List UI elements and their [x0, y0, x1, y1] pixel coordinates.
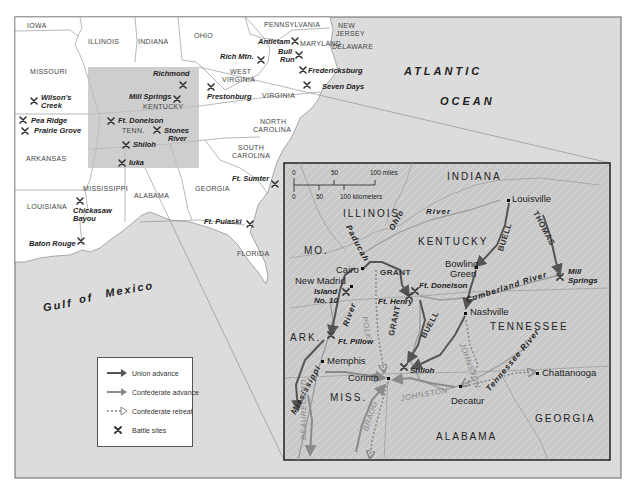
battle-label-prestonburg: Prestonburg: [207, 93, 252, 101]
scale-tick-km-50: 50: [316, 194, 323, 201]
state-label-ohio: OHIO: [194, 32, 213, 39]
commander-label-beauregard: BEAUREGARD: [300, 379, 308, 440]
inset-battle-label-no-10: No. 10: [314, 297, 338, 305]
city-label-decatur: Decatur: [451, 396, 484, 406]
union-advance-arrow-icon: [106, 368, 128, 378]
state-label-missouri: MISSOURI: [30, 68, 67, 75]
state-label-maryland: MARYLAND: [300, 40, 341, 47]
scale-tick-mi-50: 50: [331, 170, 338, 177]
inset-state-label-ark: ARK.: [290, 333, 321, 343]
scale-tick-mi-0: 0: [292, 170, 296, 177]
legend-item-union-advance: Union advance: [106, 368, 179, 378]
battle-label-rich-mtn: Rich Mtn.: [220, 53, 254, 61]
city-label-corinth: Corinth: [348, 373, 379, 383]
battle-label-seven-days: Seven Days: [322, 83, 364, 91]
inset-state-label-georgia: GEORGIA: [535, 414, 596, 424]
legend-label: Union advance: [132, 370, 179, 377]
inset-battle-label-island: Island: [314, 288, 337, 296]
scale-km-label: 100 kilometers: [340, 194, 382, 201]
state-label-north: NORTH: [260, 118, 286, 125]
inset-state-label-miss: MISS.: [330, 393, 367, 403]
state-label-louisiana: LOUISIANA: [27, 203, 67, 210]
battle-label-ft-donelson: Ft. Donelson: [118, 117, 163, 125]
inset-battle-label-mill: Mill: [568, 268, 581, 276]
state-label-south: SOUTH: [238, 144, 264, 151]
state-label-virginia: VIRGINIA: [222, 76, 255, 83]
state-label-georgia: GEORGIA: [195, 185, 230, 192]
state-label-mississippi: MISSISSIPPI: [83, 185, 128, 192]
battle-label-mill-springs: Mill Springs: [129, 93, 172, 101]
state-label-pennsylvania: PENNSYLVANIA: [264, 21, 320, 28]
scale-miles-label: 100 miles: [370, 170, 398, 177]
state-label-florida: FLORIDA: [237, 250, 269, 257]
battle-label-bayou: Bayou: [73, 215, 96, 223]
battle-site-x-icon: [106, 425, 128, 435]
water-label-ocean: OCEAN: [440, 96, 495, 107]
state-label-virginia: VIRGINIA: [262, 92, 295, 99]
battle-label-river: River: [168, 135, 187, 143]
battle-label-ft-sumter: Ft. Sumter: [232, 175, 269, 183]
city-label-new-madrid: New Madrid: [295, 276, 346, 286]
state-label-new: NEW: [338, 22, 355, 29]
confederate-retreat-arrow-icon: [106, 406, 128, 416]
state-label-kentucky: KENTUCKY: [143, 103, 184, 110]
legend-label: Confederate advance: [132, 389, 199, 396]
map-legend: Union advance Confederate advance Confed…: [97, 357, 193, 447]
legend-item-confederate-retreat: Confederate retreat: [106, 406, 193, 416]
inset-state-label-tennessee: TENNESSEE: [490, 322, 569, 332]
confederate-advance-arrow-icon: [106, 387, 128, 397]
state-label-arkansas: ARKANSAS: [26, 155, 67, 162]
battle-label-antietam: Antietam: [258, 38, 290, 46]
battle-label-ft-pulaski: Ft. Pulaski: [204, 218, 242, 226]
state-label-tenn: TENN.: [122, 127, 145, 134]
river-label-river: River: [426, 208, 451, 216]
city-label-memphis: Memphis: [327, 356, 366, 366]
state-label-indiana: INDIANA: [138, 38, 169, 45]
battle-label-shiloh: Shiloh: [133, 141, 156, 149]
legend-item-battle-sites: Battle sites: [106, 425, 166, 435]
state-label-carolina: CAROLINA: [253, 126, 291, 133]
inset-state-label-kentucky: KENTUCKY: [418, 237, 488, 247]
battle-label-richmond: Richmond: [153, 70, 190, 78]
battle-label-creek: Creek: [41, 102, 62, 110]
inset-state-label-indiana: INDIANA: [447, 172, 502, 182]
legend-label: Battle sites: [132, 427, 166, 434]
battle-label-baton-rouge: Baton Rouge: [29, 240, 76, 248]
water-label-atlantic: ATLANTIC: [404, 66, 482, 77]
battle-label-iuka: Iuka: [129, 159, 144, 167]
inset-state-label-alabama: ALABAMA: [436, 432, 497, 442]
city-label-nashville: Nashville: [470, 307, 509, 317]
state-label-west: WEST: [230, 68, 251, 75]
city-label-chattanooga: Chattanooga: [542, 368, 596, 378]
inset-battle-label-ft-donelson: Ft. Donelson: [419, 282, 467, 290]
city-label-louisville: Louisville: [512, 194, 551, 204]
state-label-jersey: JERSEY: [336, 30, 365, 37]
battle-label-run: Run: [280, 56, 295, 64]
battle-label-fredericksburg: Fredericksburg: [308, 67, 363, 75]
city-label-cairo: Cairo: [336, 265, 359, 275]
legend-label: Confederate retreat: [132, 408, 193, 415]
scale-tick-km-0: 0: [292, 194, 296, 201]
legend-item-confederate-advance: Confederate advance: [106, 387, 199, 397]
battle-label-prairie-grove: Prairie Grove: [34, 127, 81, 135]
state-label-alabama: ALABAMA: [134, 192, 169, 199]
inset-battle-label-shiloh: Shiloh: [410, 367, 434, 375]
state-label-iowa: IOWA: [27, 22, 47, 29]
state-label-illinois: ILLINOIS: [88, 38, 119, 45]
inset-state-label-mo: MO.: [304, 246, 329, 256]
inset-battle-label-springs: Springs: [568, 277, 598, 285]
state-label-carolina: CAROLINA: [232, 152, 270, 159]
battle-label-pea-ridge: Pea Ridge: [31, 117, 67, 125]
city-label-green: Green: [450, 269, 476, 279]
commander-label-grant: GRANT: [380, 269, 411, 277]
